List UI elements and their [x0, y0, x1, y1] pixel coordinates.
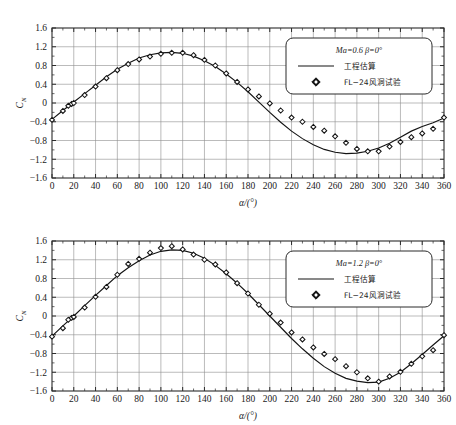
- y-tick-label: −0.8: [30, 349, 47, 359]
- x-tick-label: 0: [50, 181, 55, 191]
- data-point-marker: [158, 246, 163, 251]
- legend-condition-text: Ma=1.2 β=0°: [335, 259, 383, 268]
- data-point-marker: [169, 50, 174, 55]
- chart-panel-ma-0-6: 0204060801001201401601802002202402602803…: [0, 0, 456, 212]
- data-point-marker: [311, 345, 316, 350]
- data-point-marker: [267, 101, 272, 106]
- data-point-marker: [126, 261, 131, 266]
- y-tick-label: 1.6: [35, 236, 47, 246]
- x-tick-label: 60: [113, 181, 123, 191]
- x-tick-label: 300: [372, 394, 387, 404]
- legend-label-wind-tunnel-test: FL−24风洞试验: [344, 77, 401, 87]
- chart-svg-ma-0-6: 0204060801001201401601802002202402602803…: [0, 0, 456, 212]
- x-tick-label: 280: [350, 181, 365, 191]
- data-point-marker: [398, 139, 403, 144]
- data-point-marker: [365, 376, 370, 381]
- data-point-marker: [267, 311, 272, 316]
- x-tick-label: 340: [415, 394, 430, 404]
- y-tick-label: 1.2: [35, 255, 47, 265]
- x-tick-label: 260: [328, 181, 343, 191]
- y-axis-title: CN: [15, 310, 27, 321]
- data-point-marker: [311, 124, 316, 129]
- x-tick-label: 0: [50, 394, 55, 404]
- data-point-marker: [82, 93, 87, 98]
- data-point-marker: [333, 134, 338, 139]
- data-point-marker: [93, 84, 98, 89]
- legend: Ma=1.2 β=0°工程估算FL−24风洞试验: [286, 251, 432, 307]
- x-tick-label: 80: [134, 181, 144, 191]
- x-tick-label: 220: [284, 394, 299, 404]
- y-tick-label: 0.4: [35, 80, 47, 90]
- data-point-marker: [376, 149, 381, 154]
- data-point-marker: [420, 131, 425, 136]
- y-tick-label: 0.4: [35, 293, 47, 303]
- data-point-marker: [224, 270, 229, 275]
- x-tick-label: 120: [176, 181, 191, 191]
- x-tick-label: 320: [393, 181, 408, 191]
- x-tick-label: 300: [372, 181, 387, 191]
- data-point-marker: [158, 51, 163, 56]
- legend-label-engineering-estimate: 工程估算: [344, 274, 376, 284]
- y-tick-label: −1.6: [30, 386, 47, 396]
- data-point-marker: [289, 115, 294, 120]
- x-tick-label: 180: [241, 181, 256, 191]
- data-point-marker: [344, 364, 349, 369]
- x-tick-label: 80: [134, 394, 144, 404]
- x-tick-label: 120: [176, 394, 191, 404]
- data-point-marker: [365, 149, 370, 154]
- y-tick-label: −1.2: [30, 368, 47, 378]
- x-tick-label: 20: [69, 394, 79, 404]
- x-tick-label: 40: [91, 394, 101, 404]
- data-point-marker: [246, 87, 251, 92]
- x-tick-label: 200: [263, 394, 278, 404]
- data-point-marker: [387, 144, 392, 149]
- legend-label-engineering-estimate: 工程估算: [344, 61, 376, 71]
- x-tick-label: 20: [69, 181, 79, 191]
- y-axis-title-subscript: N: [20, 97, 27, 103]
- legend: Ma=0.6 β=0°工程估算FL−24风洞试验: [286, 38, 432, 94]
- x-tick-label: 260: [328, 394, 343, 404]
- y-tick-label: 0.8: [35, 61, 47, 71]
- y-tick-label: −0.4: [30, 330, 47, 340]
- y-tick-label: −0.8: [30, 136, 47, 146]
- data-point-marker: [322, 351, 327, 356]
- y-axis-title-text: CN: [15, 310, 27, 321]
- y-tick-label: 0.8: [35, 274, 47, 284]
- x-tick-label: 180: [241, 394, 256, 404]
- x-tick-label: 360: [437, 181, 452, 191]
- data-point-marker: [278, 108, 283, 113]
- legend-label-wind-tunnel-test: FL−24风洞试验: [344, 290, 401, 300]
- x-tick-label: 100: [154, 394, 169, 404]
- data-point-marker: [93, 294, 98, 299]
- x-tick-label: 320: [393, 394, 408, 404]
- data-point-marker: [387, 374, 392, 379]
- x-tick-label: 200: [263, 181, 278, 191]
- x-tick-label: 140: [197, 181, 212, 191]
- data-point-marker: [289, 330, 294, 335]
- data-point-marker: [60, 326, 65, 331]
- y-tick-label: −1.2: [30, 155, 47, 165]
- x-axis-title: α/(°): [239, 411, 257, 422]
- data-point-marker: [354, 370, 359, 375]
- x-tick-label: 160: [219, 394, 234, 404]
- y-tick-label: −0.4: [30, 117, 47, 127]
- x-tick-label: 240: [306, 394, 321, 404]
- x-tick-label: 100: [154, 181, 169, 191]
- data-point-marker: [333, 357, 338, 362]
- data-point-marker: [180, 50, 185, 55]
- data-point-marker: [344, 140, 349, 145]
- x-tick-label: 280: [350, 394, 365, 404]
- data-point-marker: [82, 305, 87, 310]
- x-axis-title: α/(°): [239, 198, 257, 209]
- data-point-marker: [431, 126, 436, 131]
- data-point-marker: [137, 256, 142, 261]
- y-tick-label: 0: [42, 98, 47, 108]
- y-axis-title: CN: [15, 97, 27, 108]
- y-tick-label: 1.6: [35, 23, 47, 33]
- x-tick-label: 340: [415, 181, 430, 191]
- data-point-marker: [300, 337, 305, 342]
- chart-panel-ma-1-2: 0204060801001201401601802002202402602803…: [0, 213, 456, 425]
- data-point-marker: [409, 135, 414, 140]
- data-point-marker: [420, 354, 425, 359]
- y-tick-label: −1.6: [30, 173, 47, 183]
